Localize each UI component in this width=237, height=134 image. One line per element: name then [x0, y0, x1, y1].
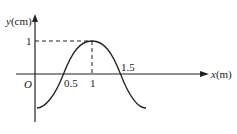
- wave-chart: y(cm) O 1 0.5 1 1.5 x(m): [0, 0, 237, 134]
- y-tick-1: 1: [26, 35, 32, 47]
- x-tick-1.5: 1.5: [121, 61, 135, 73]
- x-tick-1: 1: [90, 77, 96, 89]
- x-tick-0.5: 0.5: [64, 77, 78, 89]
- y-axis-arrow-icon: [32, 14, 38, 22]
- origin-label: O: [24, 78, 32, 90]
- x-axis-label: x(m): [210, 68, 232, 81]
- y-axis-label: y(cm): [5, 15, 32, 28]
- x-axis-arrow-icon: [200, 71, 209, 77]
